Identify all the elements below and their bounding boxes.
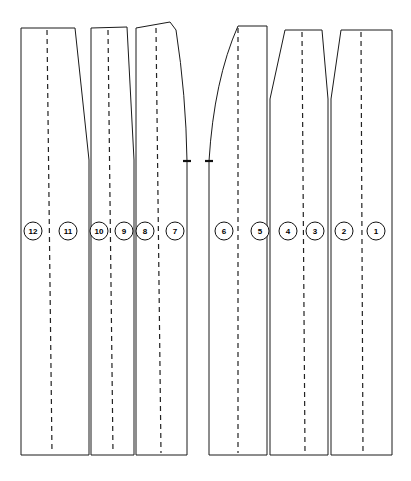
callout-marker-11: 11 bbox=[59, 222, 77, 240]
panel-layout-canvas: 121110987654321 bbox=[0, 0, 411, 481]
callout-marker-3: 3 bbox=[306, 222, 324, 240]
callout-number-11: 11 bbox=[64, 227, 73, 236]
panel-shape-panel-4-3 bbox=[270, 30, 328, 455]
callout-marker-9: 9 bbox=[115, 222, 133, 240]
callout-number-12: 12 bbox=[29, 227, 38, 236]
callout-marker-4: 4 bbox=[279, 222, 297, 240]
callout-number-10: 10 bbox=[95, 227, 104, 236]
callout-number-1: 1 bbox=[374, 227, 379, 236]
callout-marker-10: 10 bbox=[90, 222, 108, 240]
callout-number-6: 6 bbox=[222, 227, 227, 236]
panel-layout-diagram: 121110987654321 bbox=[0, 0, 411, 481]
callout-marker-6: 6 bbox=[215, 222, 233, 240]
callout-number-2: 2 bbox=[342, 227, 347, 236]
callout-number-3: 3 bbox=[313, 227, 318, 236]
callout-marker-2: 2 bbox=[335, 222, 353, 240]
callout-marker-1: 1 bbox=[367, 222, 385, 240]
callout-marker-12: 12 bbox=[24, 222, 42, 240]
callout-number-5: 5 bbox=[258, 227, 263, 236]
callout-marker-7: 7 bbox=[166, 222, 184, 240]
panel-shape-panel-12-11 bbox=[21, 28, 89, 455]
panel-outline-group bbox=[21, 22, 392, 455]
callout-marker-8: 8 bbox=[136, 222, 154, 240]
callout-number-8: 8 bbox=[143, 227, 148, 236]
callout-marker-5: 5 bbox=[251, 222, 269, 240]
callout-number-7: 7 bbox=[173, 227, 178, 236]
callout-number-4: 4 bbox=[286, 227, 291, 236]
callout-number-9: 9 bbox=[122, 227, 127, 236]
